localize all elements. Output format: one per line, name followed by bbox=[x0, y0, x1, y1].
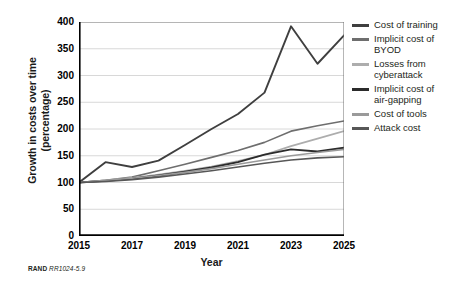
legend-item-label: Implicit cost of BYOD bbox=[374, 33, 434, 55]
x-axis-tick-label: 2023 bbox=[271, 240, 311, 251]
x-axis-tick-labels: 201520172019202120232025 bbox=[79, 240, 344, 254]
footnote-org: RAND bbox=[28, 265, 47, 272]
chart-legend: Cost of trainingImplicit cost of BYODLos… bbox=[352, 19, 455, 136]
series-line bbox=[79, 121, 344, 183]
legend-line-swatch-icon bbox=[352, 113, 369, 116]
x-axis-tick-label: 2021 bbox=[218, 240, 258, 251]
series-lines bbox=[79, 26, 344, 182]
line-chart-svg bbox=[79, 22, 344, 236]
legend-item-label: Losses from cyberattack bbox=[374, 58, 426, 80]
legend-item[interactable]: Implicit cost of BYOD bbox=[352, 33, 455, 55]
x-axis-tick-label: 2025 bbox=[324, 240, 364, 251]
footnote-id: RR1024-5.9 bbox=[49, 265, 85, 272]
legend-item-label: Cost of training bbox=[374, 19, 438, 30]
legend-item-label: Attack cost bbox=[374, 122, 420, 133]
x-axis-tick-label: 2017 bbox=[112, 240, 152, 251]
legend-item-label: Cost of tools bbox=[374, 108, 427, 119]
figure-footnote: RAND RR1024-5.9 bbox=[28, 265, 85, 272]
y-axis-tick-label: 400 bbox=[44, 17, 74, 27]
legend-item[interactable]: Cost of training bbox=[352, 19, 455, 30]
y-axis-tick-label: 50 bbox=[44, 204, 74, 214]
legend-item[interactable]: Implicit cost of air-gapping bbox=[352, 83, 455, 105]
y-axis-tick-label: 150 bbox=[44, 151, 74, 161]
y-axis-tick-label: 350 bbox=[44, 44, 74, 54]
legend-item[interactable]: Cost of tools bbox=[352, 108, 455, 119]
plot-area bbox=[79, 22, 344, 236]
y-axis-title-line-1: Growth in costs over time bbox=[26, 11, 39, 231]
legend-line-swatch-icon bbox=[352, 63, 369, 66]
legend-item[interactable]: Losses from cyberattack bbox=[352, 58, 455, 80]
legend-line-swatch-icon bbox=[352, 38, 369, 41]
legend-item[interactable]: Attack cost bbox=[352, 122, 455, 133]
y-axis-tick-label: 300 bbox=[44, 71, 74, 81]
x-axis-tick-label: 2019 bbox=[165, 240, 205, 251]
y-axis-tick-label: 200 bbox=[44, 124, 74, 134]
legend-line-swatch-icon bbox=[352, 24, 369, 27]
legend-item-label: Implicit cost of air-gapping bbox=[374, 83, 434, 105]
figure-container: Growth in costs over time (percentage) 4… bbox=[0, 0, 455, 287]
y-axis-tick-label: 250 bbox=[44, 97, 74, 107]
x-axis-title: Year bbox=[79, 256, 344, 268]
x-axis-tick-label: 2015 bbox=[59, 240, 99, 251]
legend-line-swatch-icon bbox=[352, 127, 369, 130]
y-axis-tick-label: 100 bbox=[44, 178, 74, 188]
legend-line-swatch-icon bbox=[352, 88, 369, 91]
y-axis-tick-labels: 400350300250200150100500 bbox=[44, 22, 74, 236]
